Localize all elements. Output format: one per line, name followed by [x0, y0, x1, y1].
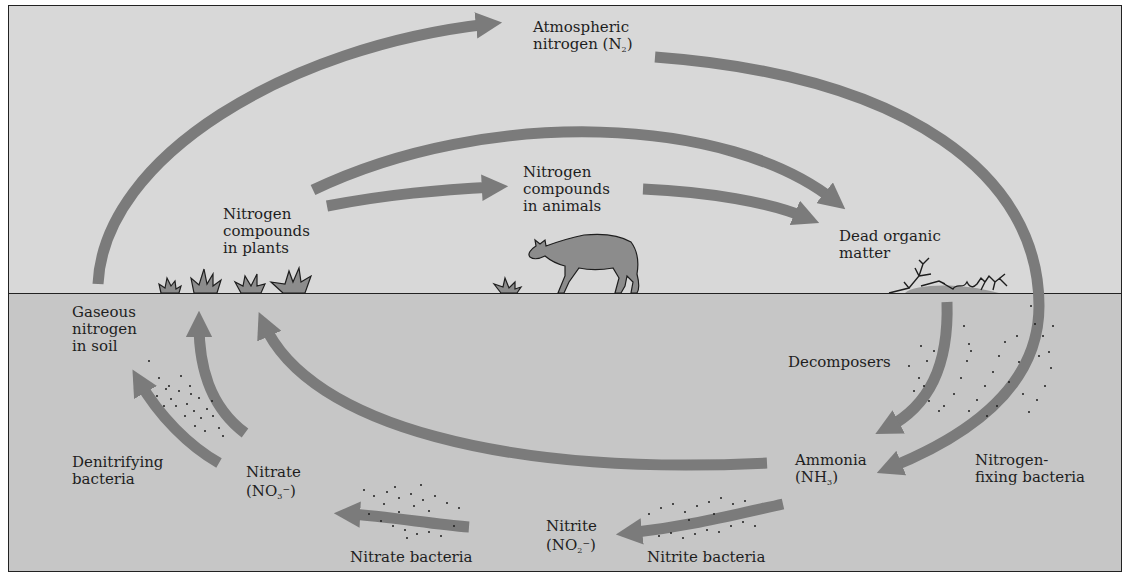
label-line: in soil — [72, 338, 137, 355]
label-line: nitrogen (N2) — [533, 36, 633, 58]
label-line: Gaseous — [72, 304, 137, 321]
label-nitrate: Nitrate (NO3−) — [246, 464, 301, 505]
label-nitrite: Nitrite (NO2−) — [546, 518, 597, 559]
label-line: (NO3−) — [246, 481, 301, 505]
label-line: Atmospheric — [533, 19, 633, 36]
label-line: bacteria — [72, 471, 163, 488]
grass-tuft-icon — [191, 269, 221, 293]
label-nitrogen-fixing-bacteria: Nitrogen- fixing bacteria — [975, 452, 1085, 486]
arrow-decomposers — [887, 302, 947, 428]
arrow-nitrate-to-plants — [199, 324, 245, 433]
label-nitrite-bacteria: Nitrite bacteria — [647, 549, 765, 566]
label-line: (NH3) — [795, 469, 867, 491]
label-line: Nitrogen — [223, 206, 310, 223]
arrow-animals-to-dead-organic — [643, 189, 807, 218]
label-line: in animals — [523, 198, 610, 215]
grass-tuft-icon — [494, 278, 521, 293]
label-atmospheric-nitrogen: Atmospheric nitrogen (N2) — [533, 19, 633, 58]
cow-icon — [529, 234, 639, 293]
label-line: Nitrogen- — [975, 452, 1085, 469]
label-denitrifying-bacteria: Denitrifying bacteria — [72, 454, 163, 488]
label-plants: Nitrogen compounds in plants — [223, 206, 310, 257]
label-line: Nitrogen — [523, 164, 610, 181]
dead-branches-icon — [889, 258, 1007, 293]
label-line: Nitrite bacteria — [647, 549, 765, 566]
label-dead-organic-matter: Dead organic matter — [839, 228, 941, 262]
arrow-plants-to-animals — [327, 187, 495, 206]
label-gaseous-nitrogen-soil: Gaseous nitrogen in soil — [72, 304, 137, 355]
label-line: Ammonia — [795, 452, 867, 469]
label-line: (NO2−) — [546, 535, 597, 559]
diagram-graphics — [9, 6, 1122, 572]
grass-tuft-icon — [271, 268, 311, 293]
plants-group — [159, 268, 521, 293]
label-line: Dead organic — [839, 228, 941, 245]
label-line: compounds — [523, 181, 610, 198]
label-nitrate-bacteria: Nitrate bacteria — [350, 549, 473, 566]
label-line: in plants — [223, 240, 310, 257]
label-line: fixing bacteria — [975, 469, 1085, 486]
label-line: compounds — [223, 223, 310, 240]
arrow-nitrite-bacteria — [629, 504, 783, 533]
grass-tuft-icon — [159, 278, 181, 293]
label-line: Decomposers — [788, 354, 891, 371]
label-animals: Nitrogen compounds in animals — [523, 164, 610, 215]
label-line: Denitrifying — [72, 454, 163, 471]
label-line: matter — [839, 245, 941, 262]
label-line: Nitrate — [246, 464, 301, 481]
label-decomposers: Decomposers — [788, 354, 891, 371]
label-ammonia: Ammonia (NH3) — [795, 452, 867, 491]
grass-tuft-icon — [235, 274, 265, 293]
label-line: Nitrate bacteria — [350, 549, 473, 566]
arrow-ammonia-to-plants — [264, 324, 767, 465]
arrow-atmospheric-to-ammonia — [655, 57, 1039, 468]
label-line: Nitrite — [546, 518, 597, 535]
label-line: nitrogen — [72, 321, 137, 338]
arrow-nitrate-bacteria — [347, 514, 469, 527]
nitrogen-cycle-diagram: Atmospheric nitrogen (N2) Nitrogen compo… — [8, 5, 1122, 572]
